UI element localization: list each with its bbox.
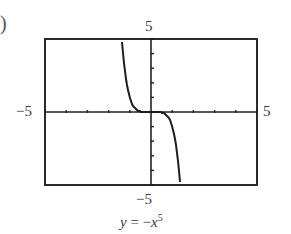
- graph-window: [0, 0, 291, 234]
- caption-exponent: 5: [158, 212, 163, 223]
- equation-caption: y = −x5: [120, 212, 163, 231]
- caption-y: y: [120, 214, 127, 230]
- caption-eq: =: [130, 214, 138, 230]
- caption-x: x: [151, 214, 158, 230]
- caption-sign: −: [143, 214, 151, 230]
